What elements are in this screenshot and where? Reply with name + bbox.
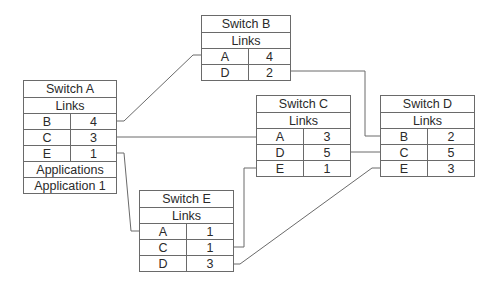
switch-a-table: Switch A Links B 4 C 3 E 1 Applications … (23, 80, 117, 194)
link-target: A (202, 49, 249, 64)
link-cost: 3 (187, 256, 233, 271)
switch-d-link-row: C 5 (381, 144, 474, 160)
switch-a-link-row: C 3 (24, 129, 116, 145)
switch-d-table: Switch D Links B 2 C 5 E 3 (380, 95, 475, 177)
switch-c-table: Switch C Links A 3 D 5 E 1 (256, 95, 351, 177)
switch-c-title: Switch C (257, 96, 350, 112)
link-cost: 1 (187, 224, 233, 239)
switch-e-title: Switch E (140, 191, 233, 207)
switch-a-link-row: E 1 (24, 145, 116, 161)
link-target: E (24, 146, 71, 161)
switch-b-table: Switch B Links A 4 D 2 (201, 15, 291, 81)
switch-d-title: Switch D (381, 96, 474, 112)
switch-a-applications-header: Applications (24, 161, 116, 177)
link-target: E (257, 161, 304, 176)
link-c-e (234, 168, 256, 247)
link-a-e (117, 153, 139, 231)
link-cost: 1 (71, 146, 116, 161)
link-e-d (234, 168, 380, 264)
switch-e-link-row: D 3 (140, 255, 233, 271)
switch-e-table: Switch E Links A 1 C 1 D 3 (139, 190, 234, 272)
link-cost: 4 (71, 114, 116, 129)
link-target: A (257, 129, 304, 144)
link-target: C (140, 240, 187, 255)
switch-d-links-header: Links (381, 112, 474, 128)
switch-b-link-row: A 4 (202, 48, 290, 64)
link-cost: 3 (428, 161, 474, 176)
link-cost: 3 (71, 130, 116, 145)
link-cost: 2 (428, 129, 474, 144)
link-target: A (140, 224, 187, 239)
link-cost: 5 (304, 145, 350, 160)
switch-c-link-row: D 5 (257, 144, 350, 160)
link-target: C (24, 130, 71, 145)
link-cost: 1 (304, 161, 350, 176)
link-cost: 2 (249, 65, 290, 80)
link-target: D (140, 256, 187, 271)
switch-b-links-header: Links (202, 32, 290, 48)
link-cost: 4 (249, 49, 290, 64)
link-target: C (381, 145, 428, 160)
switch-e-link-row: C 1 (140, 239, 233, 255)
link-cost: 3 (304, 129, 350, 144)
switch-a-links-header: Links (24, 97, 116, 113)
link-target: B (381, 129, 428, 144)
switch-c-links-header: Links (257, 112, 350, 128)
switch-c-link-row: A 3 (257, 128, 350, 144)
switch-d-link-row: B 2 (381, 128, 474, 144)
link-target: E (381, 161, 428, 176)
switch-b-link-row: D 2 (202, 64, 290, 80)
switch-a-link-row: B 4 (24, 113, 116, 129)
switch-e-links-header: Links (140, 207, 233, 223)
link-cost: 5 (428, 145, 474, 160)
switch-d-link-row: E 3 (381, 160, 474, 176)
switch-c-link-row: E 1 (257, 160, 350, 176)
switch-e-link-row: A 1 (140, 223, 233, 239)
link-cost: 1 (187, 240, 233, 255)
link-target: D (257, 145, 304, 160)
link-a-b (117, 55, 201, 121)
link-target: B (24, 114, 71, 129)
switch-a-application-item: Application 1 (24, 177, 116, 193)
switch-b-title: Switch B (202, 16, 290, 32)
switch-a-title: Switch A (24, 81, 116, 97)
link-target: D (202, 65, 249, 80)
